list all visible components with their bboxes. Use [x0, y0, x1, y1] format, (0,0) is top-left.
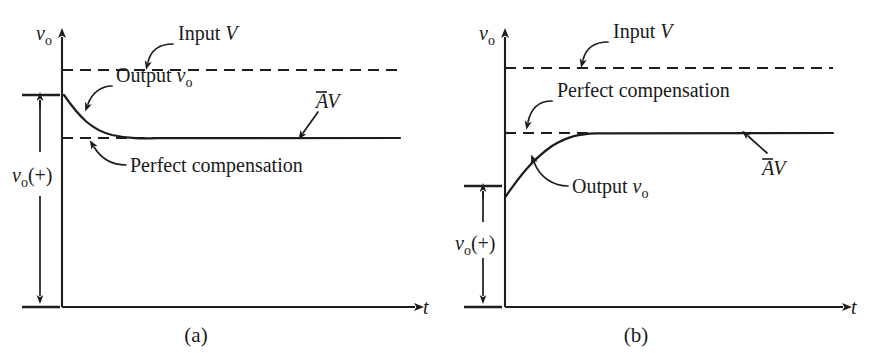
annotation-perfect-compensation-b: Perfect compensation — [528, 79, 730, 122]
annotation-input-v-b: Input V — [583, 20, 675, 60]
dimension-label-b-main: v — [455, 232, 464, 254]
annotation-perfect-compensation-label-a: Perfect compensation — [130, 154, 303, 177]
annotation-output-vo-leader-b — [534, 162, 568, 186]
annotation-input-v-label-a: Input V — [178, 22, 240, 45]
annotation-perfect-compensation-leader-b — [528, 101, 552, 122]
dimension-vo-b: vo(+) — [455, 186, 502, 307]
annotation-av-a: AV — [303, 90, 342, 133]
annotation-input-v-a: Input V — [148, 22, 240, 62]
annotation-output-vo-b: Output vo — [534, 162, 648, 201]
annotation-input-v-leader-b — [583, 42, 608, 60]
dimension-label-a: vo(+) — [12, 164, 53, 190]
annotation-output-vo-label-a: Output vo — [116, 64, 192, 90]
annotation-output-vo-text-b: Output — [572, 175, 633, 198]
annotation-input-v-label-b: Input V — [613, 20, 675, 43]
annotation-input-v-text-a: Input — [178, 22, 225, 45]
y-axis-label-b-sub: o — [488, 33, 495, 48]
annotation-output-vo-italic-a: v — [177, 64, 186, 86]
dimension-vo-a: vo(+) — [12, 95, 60, 307]
annotation-output-vo-label-b: Output vo — [572, 175, 648, 201]
annotation-av-b: AV — [748, 136, 788, 179]
y-axis-label-a-main: v — [36, 22, 45, 44]
annotation-input-v-text-b: Input — [613, 20, 660, 43]
annotation-perfect-compensation-leader-a — [94, 147, 126, 165]
y-axis-label-a: vo — [36, 22, 52, 48]
annotation-input-v-leader-a — [148, 44, 173, 62]
annotation-output-vo-sub-b: o — [641, 186, 648, 201]
y-axis-label-b: vo — [479, 22, 495, 48]
annotation-input-v-italic-a: V — [225, 22, 240, 44]
annotation-av-a-letter: V — [327, 90, 342, 112]
x-axis-label-b: t — [851, 296, 857, 318]
annotation-av-b-letter: V — [773, 157, 788, 179]
annotation-output-vo-text-a: Output — [116, 64, 177, 87]
dimension-label-b-tail: (+) — [471, 232, 496, 255]
dimension-label-a-tail: (+) — [28, 164, 53, 187]
chart-panel-a: vo t vo(+) Input V Output vo — [0, 0, 440, 353]
annotation-input-v-italic-b: V — [660, 20, 675, 42]
annotation-output-vo-italic-b: v — [633, 175, 642, 197]
chart-panel-b: vo t vo(+) Input V Perfect compensation — [440, 0, 881, 353]
y-axis-label-b-main: v — [479, 22, 488, 44]
annotation-output-vo-sub-a: o — [185, 75, 192, 90]
annotation-av-leader-a — [303, 112, 318, 133]
annotation-perfect-compensation-a: Perfect compensation — [94, 147, 303, 177]
dimension-label-a-main: v — [12, 164, 21, 186]
output-curve-a — [64, 95, 400, 138]
dimension-label-b-sub: o — [464, 243, 471, 258]
y-axis-label-a-sub: o — [45, 33, 52, 48]
panel-caption-a: (a) — [184, 323, 207, 347]
x-axis-label-a: t — [423, 296, 429, 318]
annotation-output-vo-leader-a — [88, 86, 112, 104]
dimension-label-a-sub: o — [21, 175, 28, 190]
axes-group-b — [505, 37, 843, 307]
annotation-av-label-a: AV — [314, 90, 342, 112]
dimension-label-b: vo(+) — [455, 232, 496, 258]
annotation-av-label-b: AV — [760, 157, 788, 179]
figure-root: vo t vo(+) Input V Output vo — [0, 0, 881, 353]
panel-caption-b: (b) — [624, 323, 649, 347]
annotation-perfect-compensation-label-b: Perfect compensation — [557, 79, 730, 102]
annotation-av-leader-b — [748, 136, 767, 153]
